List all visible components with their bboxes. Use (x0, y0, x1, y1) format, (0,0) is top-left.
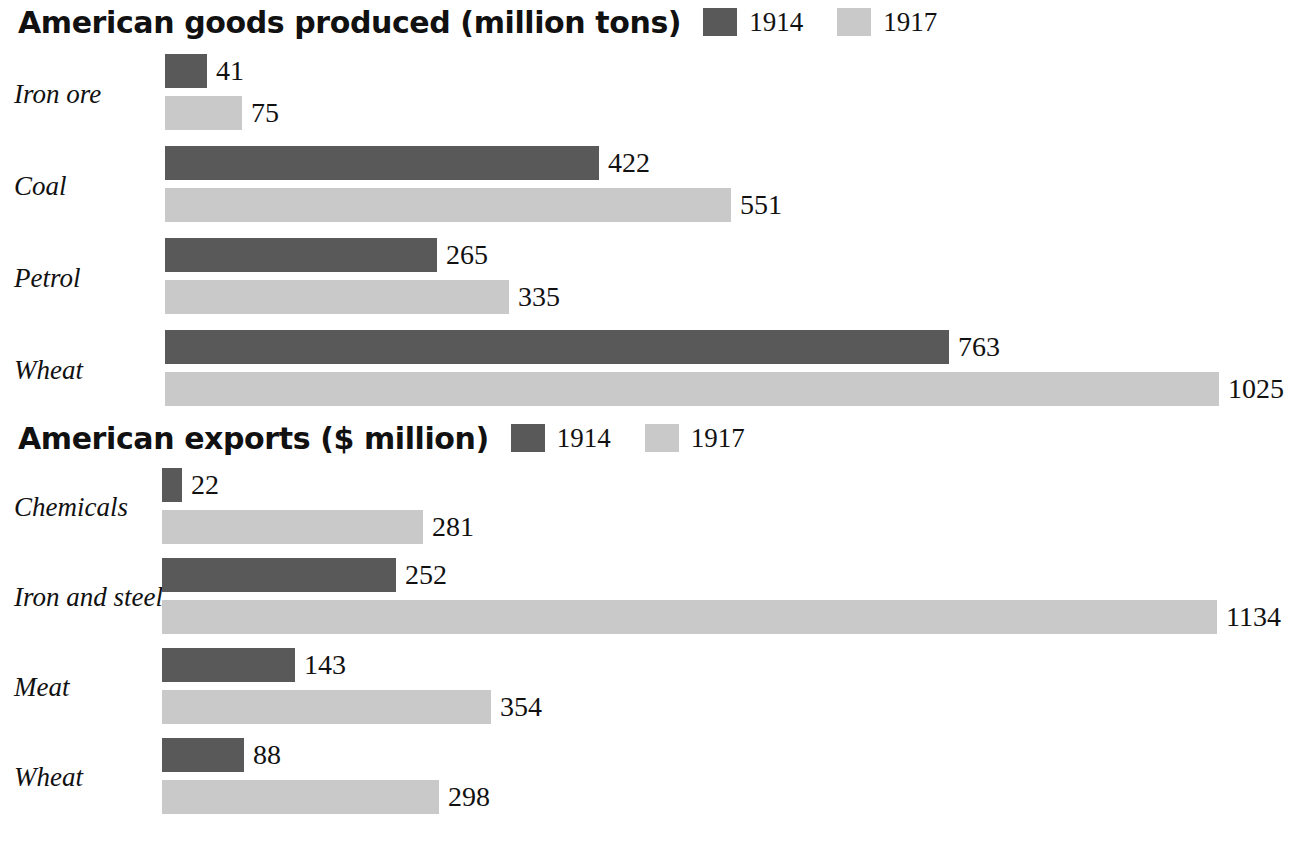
legend-swatch-1917-icon (645, 424, 679, 452)
bar-value-label: 143 (304, 651, 346, 679)
bar-1917 (162, 600, 1217, 634)
category-label: Wheat (14, 764, 83, 791)
legend-label-1914: 1914 (557, 423, 611, 454)
category-label: Iron and steel (14, 584, 163, 611)
chart-american-exports: American exports ($ million) 1914 1917 C… (0, 416, 1295, 822)
bar-value-label: 41 (216, 57, 244, 85)
bar-row-1917: 281 (162, 510, 474, 544)
bar-row-1914: 763 (165, 330, 1000, 364)
chart-1-legend: 1914 1917 (703, 7, 971, 38)
bar-1917 (165, 188, 731, 222)
bar-group: Coal422551 (0, 140, 1295, 232)
chart-2-legend: 1914 1917 (511, 423, 779, 454)
chart-2-header: American exports ($ million) 1914 1917 (0, 416, 1295, 460)
bar-value-label: 298 (448, 783, 490, 811)
bar-group: Wheat88298 (0, 732, 1295, 822)
chart-2-title: American exports ($ million) (18, 421, 489, 456)
bar-1917 (165, 280, 509, 314)
bar-1917 (165, 96, 242, 130)
bar-1917 (162, 780, 439, 814)
bar-value-label: 88 (253, 741, 281, 769)
bar-1914 (162, 648, 295, 682)
category-label: Meat (14, 674, 69, 701)
chart-2-rows: Chemicals22281Iron and steel2521134Meat1… (0, 462, 1295, 822)
bar-value-label: 252 (405, 561, 447, 589)
legend-label-1917: 1917 (883, 7, 937, 38)
bar-value-label: 335 (518, 283, 560, 311)
bar-value-label: 422 (608, 149, 650, 177)
legend-label-1914: 1914 (749, 7, 803, 38)
bar-row-1917: 354 (162, 690, 542, 724)
bar-row-1917: 335 (165, 280, 560, 314)
bar-group: Wheat7631025 (0, 324, 1295, 416)
legend-swatch-1917-icon (837, 8, 871, 36)
bar-row-1917: 1025 (165, 372, 1284, 406)
bar-value-label: 75 (251, 99, 279, 127)
legend-item-1914: 1914 (703, 7, 803, 38)
bar-value-label: 763 (958, 333, 1000, 361)
bar-1917 (162, 510, 423, 544)
bar-1917 (165, 372, 1219, 406)
bar-group: Meat143354 (0, 642, 1295, 732)
bar-row-1917: 298 (162, 780, 490, 814)
legend-item-1917: 1917 (645, 423, 745, 454)
bar-1914 (162, 558, 396, 592)
bar-row-1914: 88 (162, 738, 281, 772)
category-label: Coal (14, 173, 67, 200)
chart-1-rows: Iron ore4175Coal422551Petrol265335Wheat7… (0, 48, 1295, 416)
bar-row-1914: 265 (165, 238, 488, 272)
bar-row-1914: 143 (162, 648, 346, 682)
legend-swatch-1914-icon (703, 8, 737, 36)
bar-row-1917: 551 (165, 188, 782, 222)
legend-label-1917: 1917 (691, 423, 745, 454)
bar-1914 (165, 54, 207, 88)
bar-1914 (165, 330, 949, 364)
bar-group: Chemicals22281 (0, 462, 1295, 552)
bar-row-1917: 1134 (162, 600, 1281, 634)
bar-group: Petrol265335 (0, 232, 1295, 324)
category-label: Chemicals (14, 494, 128, 521)
bar-row-1914: 22 (162, 468, 219, 502)
category-label: Iron ore (14, 81, 101, 108)
bar-1914 (162, 738, 244, 772)
bar-group: Iron ore4175 (0, 48, 1295, 140)
bar-value-label: 354 (500, 693, 542, 721)
bar-1917 (162, 690, 491, 724)
legend-swatch-1914-icon (511, 424, 545, 452)
chart-american-goods-produced: American goods produced (million tons) 1… (0, 0, 1295, 416)
legend-item-1917: 1917 (837, 7, 937, 38)
bar-1914 (162, 468, 182, 502)
chart-1-header: American goods produced (million tons) 1… (0, 0, 1295, 44)
bar-group: Iron and steel2521134 (0, 552, 1295, 642)
bar-row-1914: 252 (162, 558, 447, 592)
bar-value-label: 551 (740, 191, 782, 219)
chart-1-title: American goods produced (million tons) (18, 5, 681, 40)
bar-1914 (165, 238, 437, 272)
bar-value-label: 265 (446, 241, 488, 269)
bar-value-label: 1025 (1228, 375, 1284, 403)
bar-row-1917: 75 (165, 96, 279, 130)
bar-value-label: 281 (432, 513, 474, 541)
bar-value-label: 1134 (1226, 603, 1281, 631)
bar-value-label: 22 (191, 471, 219, 499)
bar-row-1914: 422 (165, 146, 650, 180)
legend-item-1914: 1914 (511, 423, 611, 454)
category-label: Petrol (14, 265, 81, 292)
category-label: Wheat (14, 357, 83, 384)
bar-row-1914: 41 (165, 54, 244, 88)
bar-1914 (165, 146, 599, 180)
